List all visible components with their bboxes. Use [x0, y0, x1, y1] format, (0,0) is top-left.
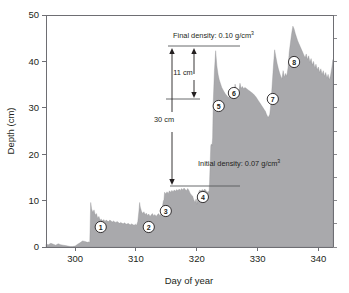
marker-label-1: 1 — [99, 224, 103, 231]
marker-4: 4 — [197, 191, 208, 202]
marker-label-7: 7 — [271, 96, 275, 103]
x-tick-label-310: 310 — [128, 253, 144, 264]
marker-7: 7 — [267, 93, 278, 104]
marker-6: 6 — [228, 87, 239, 98]
marker-label-4: 4 — [201, 194, 205, 201]
x-tick-label-340: 340 — [310, 253, 326, 264]
marker-2: 2 — [143, 221, 154, 232]
y-tick-label-20: 20 — [28, 149, 39, 160]
y-tick-label-50: 50 — [28, 9, 39, 20]
chart-figure: 01020304050 300310320330340 Day of year … — [0, 0, 349, 293]
snow-depth-area-chart: 01020304050 300310320330340 Day of year … — [0, 0, 349, 293]
marker-label-8: 8 — [292, 59, 296, 66]
marker-label-2: 2 — [147, 224, 151, 231]
x-tick-label-320: 320 — [189, 253, 205, 264]
y-tick-label-40: 40 — [28, 56, 39, 67]
y-tick-label-10: 10 — [28, 195, 39, 206]
y-tick-label-30: 30 — [28, 102, 39, 113]
marker-3: 3 — [160, 205, 171, 216]
marker-label-3: 3 — [164, 208, 168, 215]
marker-label-5: 5 — [217, 103, 221, 110]
marker-8: 8 — [288, 56, 299, 67]
x-axis-title: Day of year — [165, 275, 214, 286]
marker-1: 1 — [95, 221, 106, 232]
marker-5: 5 — [213, 100, 224, 111]
x-tick-label-330: 330 — [250, 253, 266, 264]
depth-30cm-label: 30 cm — [154, 115, 174, 124]
initial-density-label: Initial density: 0.07 g/cm3 — [198, 158, 280, 168]
final-density-label: Final density: 0.10 g/cm3 — [173, 30, 254, 40]
y-tick-label-0: 0 — [34, 241, 39, 252]
marker-label-6: 6 — [232, 90, 236, 97]
y-axis-title: Depth (cm) — [5, 108, 16, 155]
x-tick-label-300: 300 — [67, 253, 83, 264]
depth-11cm-label: 11 cm — [173, 68, 193, 77]
